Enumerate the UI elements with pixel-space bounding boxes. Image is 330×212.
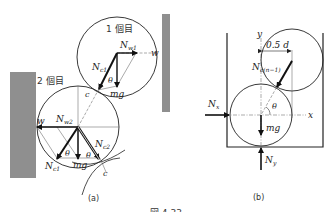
svg-text:Nw1: Nw1: [119, 40, 137, 51]
svg-text:mg: mg: [110, 89, 125, 99]
svg-text:w: w: [151, 48, 159, 58]
svg-text:θ: θ: [272, 102, 277, 111]
ball-2-label: 2 個目: [37, 75, 64, 86]
ball-1-label: 1 個目: [106, 23, 133, 34]
svg-text:Nw2: Nw2: [55, 114, 73, 125]
svg-text:Nc2: Nc2: [94, 139, 110, 150]
svg-text:x: x: [308, 110, 313, 120]
panel-a: 1 個目 Nw1 w Nc1 θ mg c 2 個目: [10, 14, 170, 203]
svg-text:0.5 d: 0.5 d: [266, 40, 289, 50]
svg-text:Nc1: Nc1: [91, 62, 107, 73]
panel-a-label: (a): [88, 194, 99, 203]
force-diagram: 1 個目 Nw1 w Nc1 θ mg c 2 個目: [0, 0, 330, 212]
svg-text:w: w: [37, 116, 45, 126]
svg-text:θ: θ: [108, 76, 113, 85]
svg-text:Nc(n−1): Nc(n−1): [251, 62, 281, 73]
right-wall: [162, 14, 170, 112]
svg-text:y: y: [256, 29, 263, 39]
svg-text:c: c: [103, 169, 108, 178]
svg-text:c: c: [85, 90, 90, 99]
svg-text:θ: θ: [65, 149, 70, 158]
left-wall: [10, 72, 36, 178]
panel-b: y x 0.5 d Nc(n−1) θ mg Nx Ny (b): [205, 29, 323, 202]
figure-caption: 図 4.33: [150, 208, 182, 212]
svg-text:mg: mg: [266, 123, 281, 133]
arrow-Ncn: [277, 61, 292, 87]
panel-b-label: (b): [253, 193, 264, 202]
svg-text:Ny: Ny: [264, 155, 277, 167]
svg-text:mg: mg: [73, 160, 88, 170]
svg-text:θ: θ: [86, 151, 91, 160]
svg-text:Nx: Nx: [207, 99, 220, 110]
